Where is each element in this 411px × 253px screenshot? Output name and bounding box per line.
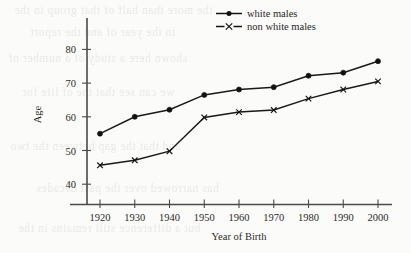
y-tick-label: 60 — [52, 111, 76, 122]
legend-label: non white males — [247, 21, 316, 32]
data-point-marker — [202, 92, 207, 97]
data-point-marker — [132, 114, 137, 119]
series-line-0 — [100, 61, 378, 133]
y-tick-label: 40 — [52, 179, 76, 190]
data-point-marker — [167, 107, 172, 112]
y-tick-label: 70 — [52, 78, 76, 89]
x-axis-title: Year of Birth — [179, 231, 299, 242]
legend-item-non-white-males: non white males — [216, 21, 316, 32]
data-point-marker — [306, 73, 311, 78]
y-tick-label: 50 — [52, 145, 76, 156]
data-point-marker — [271, 85, 276, 90]
x-tick-label: 2000 — [358, 212, 398, 223]
data-point-marker — [376, 59, 381, 64]
legend-label: white males — [247, 8, 297, 19]
chart-axes — [70, 18, 392, 205]
legend-item-white-males: white males — [216, 8, 316, 19]
y-axis-title: Age — [32, 89, 43, 139]
legend-marker-filled-circle-icon — [216, 8, 242, 19]
chart-legend: white males non white males — [216, 8, 316, 32]
legend-marker-cross-icon — [216, 21, 242, 32]
data-point-marker — [237, 87, 242, 92]
y-tick-label: 80 — [52, 44, 76, 55]
data-point-marker — [98, 131, 103, 136]
data-point-marker — [341, 70, 346, 75]
series-line-1 — [100, 81, 378, 165]
data-series-group — [97, 59, 381, 168]
line-chart-figure: 4050607080 19201930194019501960197019801… — [0, 0, 411, 253]
